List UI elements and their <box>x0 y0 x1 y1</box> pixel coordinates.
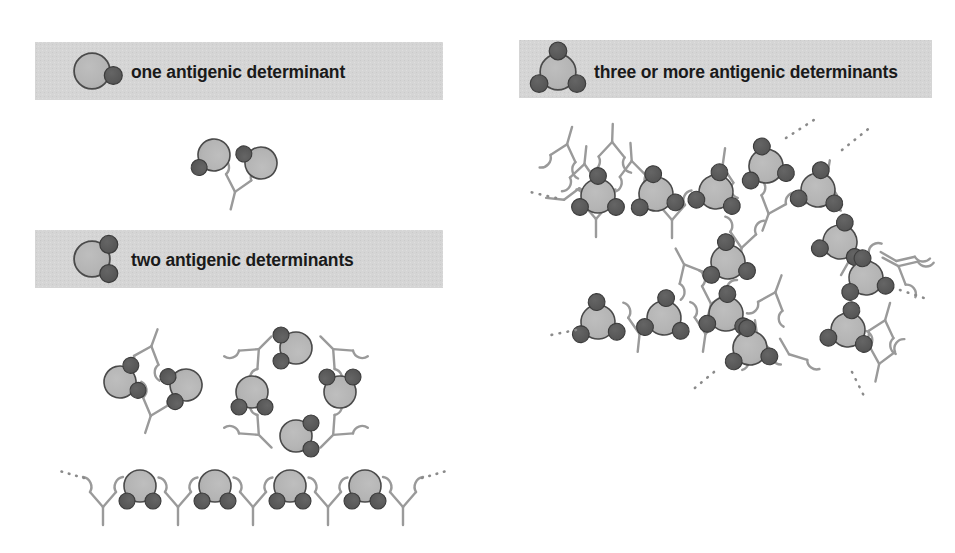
figure-canvas: one antigenic determinant two antigenic … <box>0 0 955 553</box>
antigen-trivalent <box>687 159 747 215</box>
antigen-antibody-diagram: one antigenic determinant two antigenic … <box>0 0 955 553</box>
antigen-trivalent <box>626 162 685 217</box>
antigen-bivalent <box>269 470 311 509</box>
legend-two-label: two antigenic determinants <box>131 250 354 270</box>
complex-linear-chain <box>56 470 450 525</box>
antigen-trivalent <box>734 133 796 191</box>
legend-three-determinants: three or more antigenic determinants <box>519 40 932 98</box>
complex-one-determinant <box>185 133 281 215</box>
legend-two-determinants: two antigenic determinants <box>35 230 443 288</box>
antigen-bivalent <box>119 470 161 509</box>
antigen-trivalent <box>819 297 879 353</box>
complex-cyclic-ring <box>224 323 368 462</box>
antigen-bivalent <box>231 376 273 415</box>
legend-three-label: three or more antigenic determinants <box>594 62 898 82</box>
legend-one-label: one antigenic determinant <box>131 62 345 82</box>
antigen-monovalent <box>231 140 281 183</box>
antigen-bivalent <box>344 470 386 509</box>
complex-large-lattice <box>530 116 934 400</box>
antigen-trivalent <box>699 231 757 284</box>
lattice-antigens <box>570 133 896 371</box>
complex-cyclic-dimer <box>99 323 207 439</box>
chain-continuation-dots <box>56 470 450 478</box>
antigen-bivalent <box>319 369 361 408</box>
antigen-bivalent <box>158 360 207 411</box>
antigen-trivalent <box>570 292 626 343</box>
antigen-bivalent <box>273 327 312 369</box>
antigen-bivalent <box>194 470 236 509</box>
antigen-trivalent <box>789 158 848 213</box>
legend-one-determinant: one antigenic determinant <box>35 42 443 100</box>
antigen-bivalent <box>280 415 319 457</box>
